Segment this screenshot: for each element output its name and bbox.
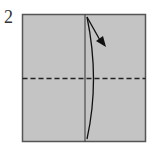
origami-diagram <box>0 0 158 154</box>
